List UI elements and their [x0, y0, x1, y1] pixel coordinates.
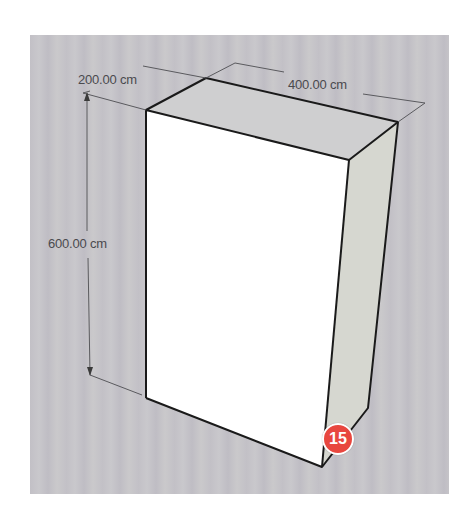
width-dimension-label: 400.00 cm: [288, 77, 347, 92]
box-front-face: [146, 110, 349, 467]
arrow-down-icon: [87, 367, 93, 376]
depth-dimension-label: 200.00 cm: [78, 72, 137, 87]
step-number-badge: 15: [322, 423, 354, 455]
height-dimension-label: 600.00 cm: [48, 236, 107, 251]
box-model: [0, 0, 475, 523]
